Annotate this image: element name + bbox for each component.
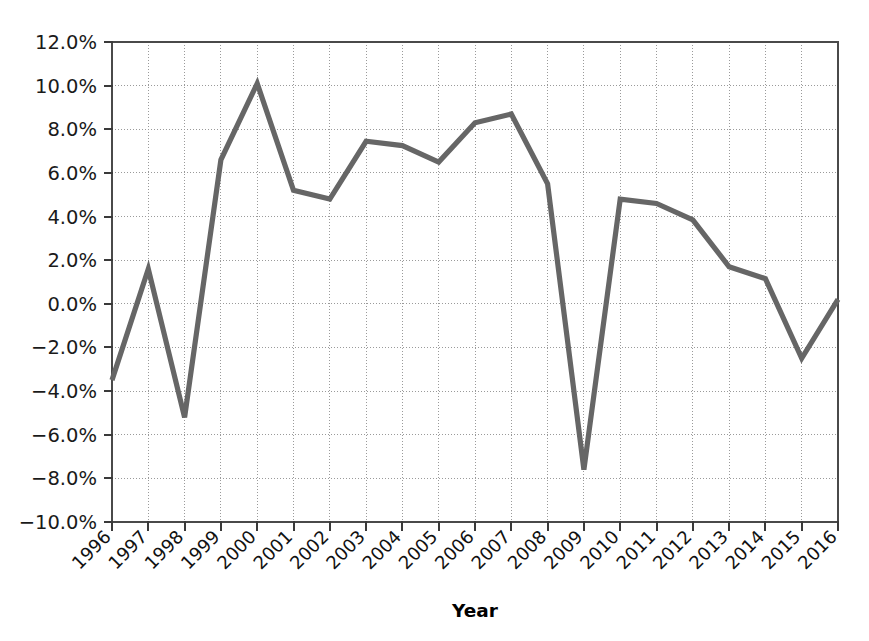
- y-tick-label: −2.0%: [31, 336, 97, 359]
- y-tick-label: 10.0%: [35, 75, 97, 98]
- y-tick-label: −4.0%: [31, 380, 97, 403]
- y-tick-label: 6.0%: [47, 162, 97, 185]
- chart-container: 12.0%10.0%8.0%6.0%4.0%2.0%0.0%−2.0%−4.0%…: [0, 0, 869, 641]
- x-axis-title: Year: [451, 600, 499, 621]
- y-tick-label: 0.0%: [47, 293, 97, 316]
- vertical-gridlines: [112, 42, 838, 522]
- y-tick-label: 2.0%: [47, 249, 97, 272]
- line-chart: 12.0%10.0%8.0%6.0%4.0%2.0%0.0%−2.0%−4.0%…: [0, 0, 869, 641]
- x-axis-ticks: [112, 521, 838, 531]
- y-tick-label: −10.0%: [19, 511, 97, 534]
- y-tick-label: −8.0%: [31, 467, 97, 490]
- y-tick-label: 12.0%: [35, 31, 97, 54]
- y-tick-label: 4.0%: [47, 206, 97, 229]
- y-tick-label: 8.0%: [47, 118, 97, 141]
- y-tick-label: −6.0%: [31, 424, 97, 447]
